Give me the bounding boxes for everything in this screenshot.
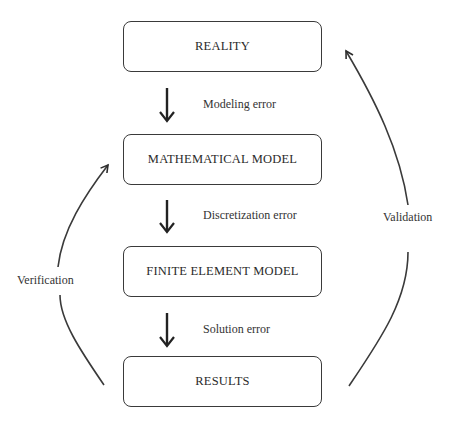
box-label-mathematical-model: MATHEMATICAL MODEL — [148, 152, 297, 167]
box-results: RESULTS — [123, 356, 322, 407]
box-label-reality: REALITY — [195, 39, 250, 54]
box-reality: REALITY — [123, 21, 322, 72]
label-validation: Validation — [383, 210, 432, 225]
box-label-finite-element-model: FINITE ELEMENT MODEL — [146, 264, 298, 279]
label-solution-error: Solution error — [203, 322, 270, 337]
box-label-results: RESULTS — [195, 374, 249, 389]
arrow-discretization-error — [160, 200, 174, 232]
label-verification: Verification — [17, 273, 74, 288]
box-finite-element-model: FINITE ELEMENT MODEL — [123, 246, 322, 297]
arrow-solution-error — [160, 313, 174, 346]
label-modeling-error: Modeling error — [203, 97, 276, 112]
box-mathematical-model: MATHEMATICAL MODEL — [123, 134, 322, 185]
label-discretization-error: Discretization error — [203, 208, 297, 223]
arrow-modeling-error — [160, 88, 174, 121]
